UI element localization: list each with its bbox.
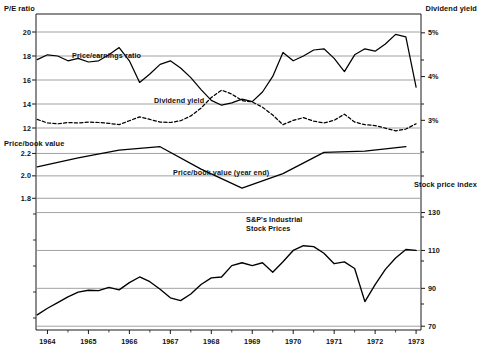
ytick-label-pe-20: 20 xyxy=(4,28,31,37)
financial-chart: P/E ratioDividend yieldPrice/book valueS… xyxy=(0,0,481,354)
xtick-label-1966: 1966 xyxy=(117,337,141,346)
ytick-label-spx-110: 110 xyxy=(428,246,440,255)
xtick-label-1964: 1964 xyxy=(35,337,59,346)
ytick-label-dy-5pct: 5% xyxy=(428,28,439,37)
xtick-label-1968: 1968 xyxy=(199,337,223,346)
xtick-label-1970: 1970 xyxy=(281,337,305,346)
ytick-label-spx-130: 130 xyxy=(428,208,440,217)
middle-axis-title: Price/book value xyxy=(4,139,64,148)
left-axis-title: P/E ratio xyxy=(4,4,35,13)
ytick-label-pb-1-8: 1.8 xyxy=(2,194,31,203)
ytick-label-dy-4pct: 4% xyxy=(428,72,439,81)
ytick-label-pb-2: 2.0 xyxy=(2,171,31,180)
ytick-label-spx-90: 90 xyxy=(428,284,436,293)
right-axis-title-2: Stock price index xyxy=(409,180,477,189)
annotation-sp-industrial-stock-prices: S&P's Industrial Stock Prices xyxy=(246,215,302,233)
ytick-label-pe-12: 12 xyxy=(4,124,31,133)
ytick-label-spx-70: 70 xyxy=(428,322,436,331)
annotation-price-earnings-ratio: Price/earnings ratio xyxy=(72,51,141,60)
xtick-label-1972: 1972 xyxy=(363,337,387,346)
annotation-dividend-yield: Dividend yield xyxy=(154,96,204,105)
xtick-label-1973: 1973 xyxy=(404,337,428,346)
annotation-price-book-value: Price/book value (year end) xyxy=(173,168,269,177)
xtick-label-1967: 1967 xyxy=(158,337,182,346)
series-sp-industrial-stock-prices xyxy=(37,246,416,315)
ytick-label-pb-2-2: 2.2 xyxy=(2,149,31,158)
xtick-label-1965: 1965 xyxy=(76,337,100,346)
right-axis-title: Dividend yield xyxy=(411,4,477,13)
xtick-label-1971: 1971 xyxy=(322,337,346,346)
series-price-earnings-ratio xyxy=(37,34,416,105)
ytick-label-pe-14: 14 xyxy=(4,100,31,109)
series-dividend-yield xyxy=(37,90,416,131)
ytick-label-dy-3pct: 3% xyxy=(428,116,439,125)
xtick-label-1969: 1969 xyxy=(240,337,264,346)
ytick-label-pe-16: 16 xyxy=(4,76,31,85)
ytick-label-pe-18: 18 xyxy=(4,52,31,61)
